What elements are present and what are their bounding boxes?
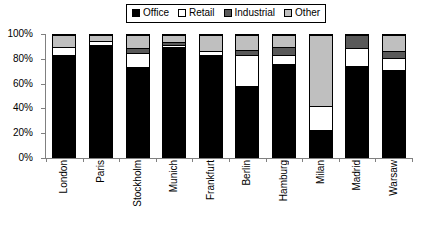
segment-other <box>236 35 258 50</box>
segment-industrial <box>273 47 295 54</box>
legend-label: Industrial <box>235 8 276 18</box>
y-axis-label: 100% <box>7 29 33 39</box>
segment-office <box>310 130 332 157</box>
bar-london <box>52 34 76 158</box>
bar-frankfurt <box>199 34 223 158</box>
y-axis-label: 0% <box>19 153 33 163</box>
category-label-milan: Milan <box>315 160 327 184</box>
segment-office <box>127 67 149 157</box>
y-axis-label: 40% <box>13 103 33 113</box>
segment-office <box>236 86 258 157</box>
legend-label: Retail <box>189 8 215 18</box>
segment-other <box>273 35 295 47</box>
segment-retail <box>346 48 368 65</box>
bar-madrid <box>345 34 369 158</box>
segment-industrial <box>383 51 405 58</box>
y-axis-label: 80% <box>13 54 33 64</box>
category-label-munich: Munich <box>168 160 180 192</box>
segment-office <box>346 66 368 157</box>
chart-legend: OfficeRetailIndustrialOther <box>126 4 326 23</box>
segment-other <box>53 35 75 47</box>
bar-warsaw <box>382 34 406 158</box>
segment-other <box>163 35 185 42</box>
stacked-bar-chart: OfficeRetailIndustrialOther 100%80%60%40… <box>0 0 429 225</box>
segment-retail <box>127 53 149 66</box>
legend-label: Other <box>295 8 320 18</box>
legend-item-other: Other <box>284 8 320 18</box>
segment-office <box>200 55 222 157</box>
legend-item-retail: Retail <box>178 8 215 18</box>
bar-munich <box>162 34 186 158</box>
category-label-stockholm: Stockholm <box>132 160 144 207</box>
segment-office <box>53 55 75 157</box>
legend-label: Office <box>143 8 169 18</box>
segment-industrial <box>346 35 368 48</box>
category-label-hamburg: Hamburg <box>278 160 290 201</box>
bar-berlin <box>235 34 259 158</box>
bar-milan <box>309 34 333 158</box>
legend-item-office: Office <box>132 8 169 18</box>
category-axis-labels: LondonParisStockholmMunichFrankfurtBerli… <box>46 160 412 222</box>
y-axis-label: 60% <box>13 79 33 89</box>
category-label-warsaw: Warsaw <box>388 160 400 196</box>
category-label-frankfurt: Frankfurt <box>205 160 217 200</box>
segment-retail <box>236 55 258 87</box>
category-label-paris: Paris <box>95 160 107 183</box>
segment-retail <box>273 55 295 65</box>
segment-office <box>163 47 185 157</box>
other-swatch <box>284 9 292 17</box>
bar-hamburg <box>272 34 296 158</box>
segment-other <box>127 35 149 48</box>
category-label-london: London <box>58 160 70 193</box>
industrial-swatch <box>224 9 232 17</box>
retail-swatch <box>178 9 186 17</box>
office-swatch <box>132 9 140 17</box>
bar-paris <box>89 34 113 158</box>
segment-other <box>310 35 332 106</box>
segment-office <box>273 64 295 157</box>
segment-other <box>200 35 222 51</box>
bar-stockholm <box>126 34 150 158</box>
legend-item-industrial: Industrial <box>224 8 276 18</box>
segment-other <box>383 35 405 51</box>
segment-retail <box>53 47 75 54</box>
bar-series-group <box>46 34 412 158</box>
y-axis-label: 20% <box>13 128 33 138</box>
segment-retail <box>310 106 332 130</box>
segment-retail <box>383 58 405 70</box>
category-label-berlin: Berlin <box>241 160 253 186</box>
category-label-madrid: Madrid <box>351 160 363 191</box>
segment-office <box>383 70 405 157</box>
x-tick-mark <box>412 158 413 162</box>
segment-office <box>90 45 112 157</box>
plot-area: 100%80%60%40%20%0% <box>46 34 412 158</box>
